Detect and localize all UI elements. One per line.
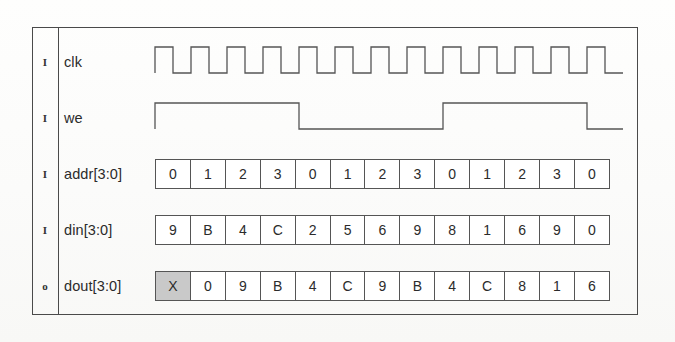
signal-row-we: I we [32,89,638,147]
bus-cell: 1 [469,215,505,245]
bus-cell: 1 [190,159,226,189]
bus-cell: 3 [539,159,575,189]
signal-direction-clk: I [32,33,58,91]
signal-direction-dout: o [32,257,58,315]
bus-cell: 2 [504,159,540,189]
bus-cell: 6 [504,215,540,245]
signal-direction-addr: I [32,145,58,203]
we-waveform-svg [153,89,627,147]
bus-cell: 9 [399,215,435,245]
bus-values-dout: X09B4C9B4C816 [155,271,609,301]
bus-cell: 3 [260,159,296,189]
signal-label-addr: addr[3:0] [64,145,122,203]
bus-cell: 8 [434,215,470,245]
clk-waveform-svg [153,33,627,91]
bus-cell: 0 [434,159,470,189]
bus-cell: 6 [574,271,610,301]
bus-cell: 1 [539,271,575,301]
bus-values-din: 9B4C256981690 [155,215,609,245]
signal-row-addr: I addr[3:0] 0123012301230 [32,145,638,203]
waveform-clk [153,33,627,91]
bus-cell: 5 [330,215,366,245]
bus-cell: C [469,271,505,301]
bus-cell: 3 [399,159,435,189]
bus-cell: 9 [155,215,191,245]
signal-row-dout: o dout[3:0] X09B4C9B4C816 [32,257,638,315]
signal-direction-din: I [32,201,58,259]
bus-cell: 9 [539,215,575,245]
bus-cell: C [330,271,366,301]
signal-label-we: we [64,89,83,147]
bus-cell: 2 [364,159,400,189]
bus-cell: 0 [574,215,610,245]
bus-cell: 1 [469,159,505,189]
signal-label-clk: clk [64,33,82,91]
bus-cell: X [155,271,191,301]
signal-label-dout: dout[3:0] [64,257,121,315]
bus-cell: 8 [504,271,540,301]
bus-values-addr: 0123012301230 [155,159,609,189]
bus-cell: 0 [574,159,610,189]
signal-direction-we: I [32,89,58,147]
bus-cell: B [260,271,296,301]
bus-cell: 0 [295,159,331,189]
bus-cell: 6 [364,215,400,245]
bus-cell: 9 [225,271,261,301]
bus-cell: 1 [330,159,366,189]
bus-cell: 2 [295,215,331,245]
signal-rows: I clk I we I addr[3:0] 0123012301230 I d… [32,27,638,315]
bus-cell: 4 [225,215,261,245]
bus-cell: B [399,271,435,301]
bus-cell: 0 [155,159,191,189]
bus-cell: 9 [364,271,400,301]
bus-cell: C [260,215,296,245]
signal-row-din: I din[3:0] 9B4C256981690 [32,201,638,259]
bus-cell: 2 [225,159,261,189]
bus-cell: 4 [295,271,331,301]
bus-cell: 4 [434,271,470,301]
bus-cell: 0 [190,271,226,301]
signal-row-clk: I clk [32,33,638,91]
signal-label-din: din[3:0] [64,201,112,259]
bus-cell: B [190,215,226,245]
waveform-we [153,89,627,147]
